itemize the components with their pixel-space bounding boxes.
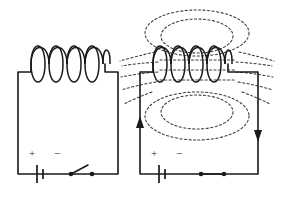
left-battery-plus-label: + (29, 147, 35, 159)
right-coil (153, 46, 232, 82)
left-battery-minus-label: − (54, 147, 60, 159)
right-circuit-panel: + − (120, 10, 274, 183)
field-ray-right-5 (242, 92, 270, 104)
left-switch-contact-node (90, 172, 95, 177)
left-switch-lever (71, 165, 88, 174)
field-ray-left-5 (124, 92, 152, 104)
magnetic-field-lines (120, 10, 274, 140)
field-loop-below-outer (145, 92, 249, 140)
field-ray-right-4 (238, 82, 273, 90)
figure-root: + − (0, 0, 281, 198)
right-switch-contact-node (222, 172, 227, 177)
field-ray-right-2 (236, 62, 272, 66)
left-circuit-panel: + − (18, 46, 118, 183)
current-arrow-right-down (254, 130, 262, 142)
field-ray-right-1 (239, 52, 274, 61)
field-loop-above-outer (145, 10, 249, 56)
right-battery-plus-label: + (151, 147, 157, 159)
left-coil (31, 46, 110, 82)
current-arrow-left-up (136, 116, 144, 128)
right-switch-closed[interactable] (199, 172, 227, 177)
field-loop-below-inner (161, 95, 233, 129)
right-battery-minus-label: − (176, 147, 182, 159)
field-ray-left-1 (120, 52, 155, 61)
field-ray-left-4 (121, 82, 156, 90)
electromagnet-diagram: + − (0, 0, 281, 198)
